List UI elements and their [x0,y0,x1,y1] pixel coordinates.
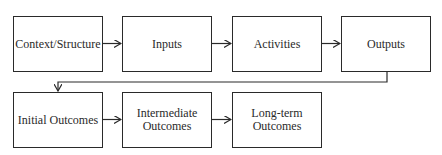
node-long-term-outcomes: Long-term Outcomes [232,92,322,148]
node-label: Intermediate Outcomes [137,107,198,133]
node-inputs: Inputs [122,16,212,72]
node-label: Long-term Outcomes [251,107,303,133]
node-label: Context/Structure [15,38,100,51]
node-label: Activities [254,38,301,51]
node-label: Outputs [367,38,405,51]
node-label: Initial Outcomes [18,114,98,127]
node-context-structure: Context/Structure [13,16,103,72]
arrow-outputs-to-initial-outcomes [58,71,387,91]
node-label: Inputs [152,38,182,51]
node-initial-outcomes: Initial Outcomes [13,92,103,148]
node-activities: Activities [232,16,322,72]
node-outputs: Outputs [341,16,431,72]
node-intermediate-outcomes: Intermediate Outcomes [122,92,212,148]
